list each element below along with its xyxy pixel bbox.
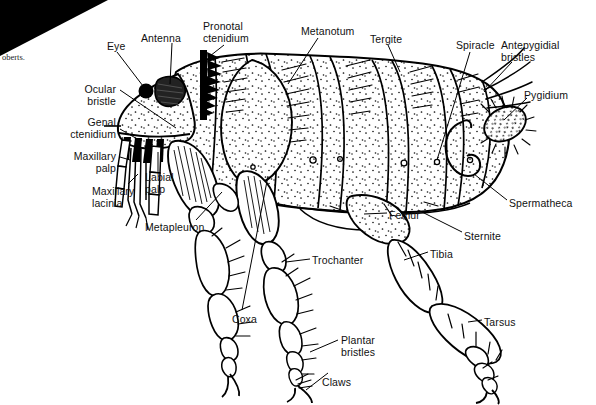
label-tergite: Tergite bbox=[370, 34, 402, 46]
label-pronotal-ctenidium: Pronotal ctenidium bbox=[203, 21, 249, 44]
label-metapleuron: Metapleuron bbox=[145, 222, 204, 234]
label-spermatheca: Spermatheca bbox=[509, 198, 573, 210]
label-trochanter: Trochanter bbox=[312, 255, 363, 267]
label-metanotum: Metanotum bbox=[301, 26, 354, 38]
label-antepygidial-bristles: Antepygidial bristles bbox=[501, 40, 559, 63]
credit-text: oberts. bbox=[2, 52, 25, 62]
label-claws: Claws bbox=[322, 377, 351, 389]
label-plantar-bristles: Plantar bristles bbox=[341, 335, 375, 358]
flea-head bbox=[104, 74, 195, 149]
label-coxa: Coxa bbox=[232, 314, 257, 326]
label-antenna: Antenna bbox=[141, 33, 181, 45]
label-pygidium: Pygidium bbox=[524, 90, 568, 102]
label-spiracle: Spiracle bbox=[456, 40, 495, 52]
label-labial-palp: Labial palp bbox=[145, 172, 174, 195]
eye-mark bbox=[139, 84, 154, 99]
label-tarsus: Tarsus bbox=[484, 317, 516, 329]
label-femur: Femur bbox=[389, 210, 420, 222]
hind-leg bbox=[347, 195, 502, 404]
label-maxillary-lacinia: Maxillary lacinia bbox=[92, 186, 134, 209]
label-tibia: Tibia bbox=[430, 249, 453, 261]
label-eye: Eye bbox=[107, 41, 125, 53]
label-maxillary-palp: Maxillary palp bbox=[74, 151, 116, 174]
label-ocular-bristle: Ocular bristle bbox=[84, 84, 116, 107]
label-sternite: Sternite bbox=[464, 231, 501, 243]
flea-anatomy-figure: oberts. EyeAntennaPronotal ctenidiumMeta… bbox=[0, 0, 596, 405]
label-genal-ctenidium: Genal ctenidium bbox=[70, 117, 116, 140]
